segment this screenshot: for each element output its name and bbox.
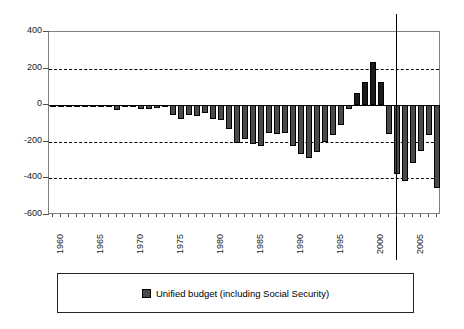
x-axis-label-2005: 2005 <box>416 234 425 254</box>
x-axis-label-1980: 1980 <box>216 234 225 254</box>
y-axis-label-0: 0 <box>0 99 42 108</box>
bar-1969 <box>122 105 128 107</box>
y-tick-0 <box>43 104 49 105</box>
x-tick-2007 <box>428 214 429 217</box>
bar-1975 <box>170 105 176 115</box>
bar-1978 <box>194 105 200 116</box>
bar-1988 <box>274 105 280 133</box>
x-tick-1961 <box>60 214 61 217</box>
x-tick-1984 <box>244 214 245 217</box>
bar-1998 <box>354 93 360 106</box>
x-axis-label-1970: 1970 <box>136 234 145 254</box>
legend-entry: Unified budget (including Social Securit… <box>58 274 413 312</box>
x-tick-2008 <box>436 214 437 217</box>
bar-1991 <box>298 105 304 154</box>
x-tick-1977 <box>188 214 189 217</box>
x-tick-1960 <box>52 214 53 217</box>
bar-1992 <box>306 105 312 158</box>
bar-1971 <box>138 105 144 109</box>
bar-1976 <box>178 105 184 119</box>
x-tick-1989 <box>284 214 285 217</box>
bar-2002 <box>386 105 392 134</box>
legend-swatch-icon <box>142 289 151 298</box>
y-axis-label--400: -400 <box>0 172 42 181</box>
x-tick-1964 <box>84 214 85 217</box>
bar-1962 <box>66 105 72 107</box>
x-tick-1971 <box>140 214 141 217</box>
bar-1983 <box>234 105 240 143</box>
bar-1966 <box>98 105 104 107</box>
x-tick-2004 <box>404 214 405 217</box>
x-tick-1962 <box>68 214 69 217</box>
x-tick-1996 <box>340 214 341 217</box>
y-tick--400 <box>43 177 49 178</box>
bar-1979 <box>202 105 208 113</box>
bar-2001 <box>378 82 384 105</box>
bars-layer <box>49 32 439 213</box>
x-tick-2001 <box>380 214 381 217</box>
bar-1961 <box>58 105 64 107</box>
bar-1980 <box>210 105 216 119</box>
budget-deficit-chart: 4002000-200-400-600 19601965197019751980… <box>0 0 464 329</box>
bar-1995 <box>330 105 336 135</box>
bar-1960 <box>50 105 56 107</box>
x-tick-1963 <box>76 214 77 217</box>
bar-1985 <box>250 105 256 144</box>
x-tick-1978 <box>196 214 197 217</box>
x-tick-1970 <box>132 214 133 217</box>
bar-1996 <box>338 105 344 125</box>
x-tick-1975 <box>172 214 173 217</box>
x-tick-1990 <box>292 214 293 217</box>
x-tick-2006 <box>420 214 421 217</box>
x-tick-1968 <box>116 214 117 217</box>
x-tick-1980 <box>212 214 213 217</box>
x-axis-label-1965: 1965 <box>96 234 105 254</box>
x-tick-1982 <box>228 214 229 217</box>
bar-1964 <box>82 105 88 107</box>
bar-1984 <box>242 105 248 139</box>
x-tick-1997 <box>348 214 349 217</box>
x-tick-2000 <box>372 214 373 217</box>
x-tick-2005 <box>412 214 413 217</box>
bar-1968 <box>114 105 120 110</box>
x-axis-label-2000: 2000 <box>376 234 385 254</box>
bar-1963 <box>74 105 80 107</box>
x-axis-label-1990: 1990 <box>296 234 305 254</box>
bar-1977 <box>186 105 192 115</box>
y-tick-200 <box>43 68 49 69</box>
x-axis-label-1985: 1985 <box>256 234 265 254</box>
y-tick--200 <box>43 141 49 142</box>
legend-label: Unified budget (including Social Securit… <box>156 288 329 299</box>
y-axis-label-200: 200 <box>0 63 42 72</box>
bar-1982 <box>226 105 232 128</box>
bar-1972 <box>146 105 152 109</box>
x-tick-1967 <box>108 214 109 217</box>
projection-divider <box>396 14 397 260</box>
bar-2004 <box>402 105 408 180</box>
bar-2007 <box>426 105 432 135</box>
x-tick-1995 <box>332 214 333 217</box>
x-axis-label-1960: 1960 <box>56 234 65 254</box>
y-axis-label-400: 400 <box>0 26 42 35</box>
bar-1987 <box>266 105 272 132</box>
bar-1994 <box>322 105 328 142</box>
x-tick-1983 <box>236 214 237 217</box>
x-tick-1994 <box>324 214 325 217</box>
x-axis-label-1975: 1975 <box>176 234 185 254</box>
x-tick-1979 <box>204 214 205 217</box>
x-tick-1973 <box>156 214 157 217</box>
bar-1974 <box>162 105 168 107</box>
x-tick-1988 <box>276 214 277 217</box>
x-tick-1969 <box>124 214 125 217</box>
bar-1967 <box>106 105 112 107</box>
bar-2000 <box>370 62 376 105</box>
x-axis-label-1995: 1995 <box>336 234 345 254</box>
x-tick-1992 <box>308 214 309 217</box>
bar-1989 <box>282 105 288 133</box>
bar-1997 <box>346 105 352 109</box>
y-tick-400 <box>43 31 49 32</box>
x-tick-1991 <box>300 214 301 217</box>
bar-1990 <box>290 105 296 145</box>
x-tick-1966 <box>100 214 101 217</box>
bar-1970 <box>130 105 136 107</box>
